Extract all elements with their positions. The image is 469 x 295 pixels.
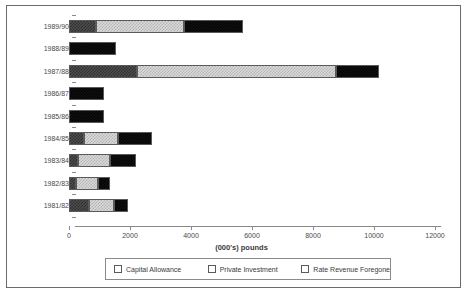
bar-segment [69,132,84,145]
bar-row [7,199,462,212]
legend-item: Private Investment [200,265,294,273]
private-investment-swatch [208,265,216,273]
chart-frame: 020004000600080001000012000 1989/901988/… [6,5,461,288]
y-tick [72,149,76,150]
y-tick [72,37,76,38]
bar-segment [78,154,110,167]
y-tick [72,172,76,173]
y-tick [72,217,76,218]
bar-segment [118,132,152,145]
legend-item: Capital Allowance [106,265,200,273]
y-tick [72,15,76,16]
x-tick-label: 8000 [293,232,333,239]
bar-segment [69,110,104,123]
x-tick-label: 12000 [415,232,455,239]
bar-segment [336,65,379,78]
x-tick [252,226,253,230]
bar-row [7,87,462,100]
bar-segment [96,20,184,33]
x-tick-label: 2000 [110,232,150,239]
bar-segment [69,177,76,190]
x-tick [313,226,314,230]
x-axis-title: (000's) pounds [7,243,469,252]
bar-segment [98,177,110,190]
rate-revenue-foregone-swatch [301,265,309,273]
x-tick-label: 6000 [232,232,272,239]
bar-segment [69,199,89,212]
capital-allowance-swatch [114,265,122,273]
bar-row [7,177,462,190]
legend-label: Rate Revenue Foregone [313,266,390,273]
y-tick [72,127,76,128]
bar-segment [69,154,78,167]
chart-legend: Capital AllowancePrivate InvestmentRate … [105,258,391,280]
bar-segment [69,42,116,55]
bar-segment [184,20,243,33]
bar-segment [89,199,114,212]
x-tick [191,226,192,230]
bar-segment [69,65,137,78]
x-tick-label: 10000 [354,232,394,239]
x-tick [435,226,436,230]
x-tick-label: 0 [49,232,89,239]
bar-segment [84,132,118,145]
x-tick [374,226,375,230]
bar-segment [114,199,128,212]
bar-row [7,132,462,145]
legend-label: Capital Allowance [126,266,181,273]
y-tick [72,194,76,195]
legend-item: Rate Revenue Foregone [293,265,390,273]
legend-label: Private Investment [220,266,278,273]
y-tick [72,105,76,106]
y-tick [72,82,76,83]
bar-row [7,65,462,78]
bar-segment [110,154,136,167]
bar-segment [137,65,336,78]
bar-row [7,20,462,33]
bar-segment [76,177,98,190]
y-tick [72,60,76,61]
bar-row [7,110,462,123]
x-tick [130,226,131,230]
x-tick [69,226,70,230]
bar-row [7,42,462,55]
x-tick-label: 4000 [171,232,211,239]
bar-segment [69,87,104,100]
bar-row [7,154,462,167]
bar-segment [69,20,96,33]
